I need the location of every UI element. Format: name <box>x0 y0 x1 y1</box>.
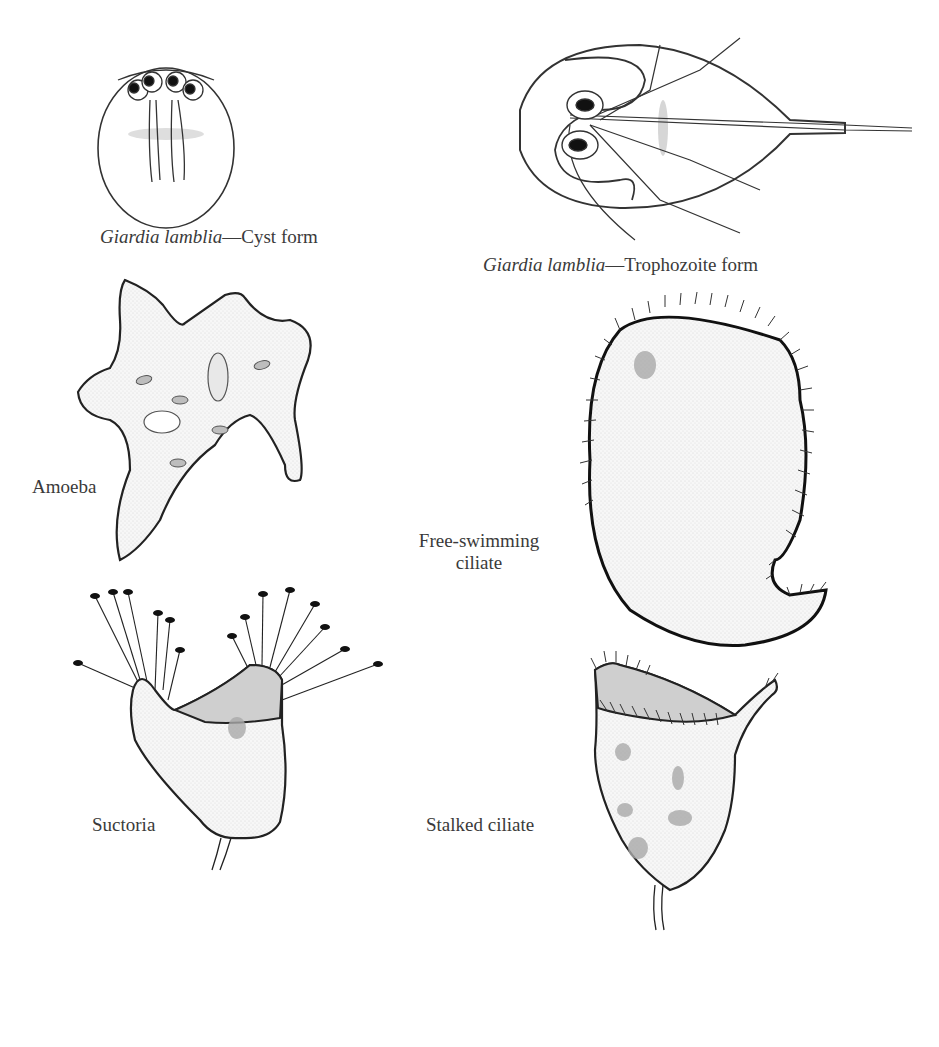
giardia-trophozoite-drawing <box>520 38 912 240</box>
stalked-ciliate-drawing <box>591 651 778 930</box>
label-form: —Trophozoite form <box>605 254 758 275</box>
label-amoeba: Amoeba <box>32 476 96 498</box>
label-line-2: ciliate <box>414 552 544 574</box>
label-giardia-trophozoite: Giardia lamblia—Trophozoite form <box>483 254 758 276</box>
label-line-1: Free-swimming <box>414 530 544 552</box>
label-free-swimming-ciliate: Free-swimming ciliate <box>414 530 544 574</box>
label-stalked-ciliate: Stalked ciliate <box>426 814 534 836</box>
free-swimming-ciliate-drawing <box>580 292 826 646</box>
label-form: —Cyst form <box>222 226 318 247</box>
label-suctoria: Suctoria <box>92 814 155 836</box>
protozoa-diagram <box>0 0 939 1047</box>
label-species-italic: Giardia lamblia <box>483 254 605 275</box>
label-species-italic: Giardia lamblia <box>100 226 222 247</box>
amoeba-drawing <box>78 280 311 560</box>
giardia-cyst-drawing <box>98 68 234 228</box>
label-giardia-cyst: Giardia lamblia—Cyst form <box>100 226 318 248</box>
